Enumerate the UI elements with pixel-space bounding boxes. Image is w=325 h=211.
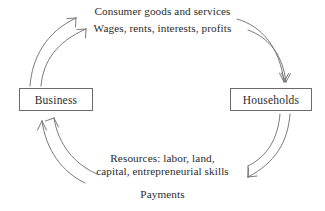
flow-top-inner-arrow [41, 29, 86, 86]
entity-label-business: Business [35, 94, 78, 106]
flow-label-payments: Payments [140, 188, 184, 201]
flow-right-inner-arrow [248, 30, 291, 82]
entity-box-business: Business [19, 88, 93, 111]
flow-right-outer-arrow [237, 19, 289, 82]
flow-label-resources-line1: Resources: labor, land, [96, 152, 229, 165]
flow-bottom-right-outer-arrow [248, 114, 290, 177]
flow-top-outer-arrow [30, 18, 76, 86]
flow-bottom-left-inner-arrow [46, 118, 98, 174]
entity-label-households: Households [243, 94, 299, 106]
flow-bottom-left-outer-arrow [38, 121, 86, 183]
flow-label-consumer-goods: Consumer goods and services [95, 5, 231, 18]
circular-flow-diagram: Business Households Consumer goods and s… [0, 0, 325, 211]
flow-bottom-right-inner-arrow [248, 114, 280, 177]
entity-box-households: Households [230, 88, 312, 111]
flow-label-resources-line2: capital, entrepreneurial skills [96, 165, 229, 178]
flow-label-resources: Resources: labor, land, capital, entrepr… [96, 152, 229, 178]
flow-label-wages-rents: Wages, rents, interests, profits [94, 22, 232, 35]
